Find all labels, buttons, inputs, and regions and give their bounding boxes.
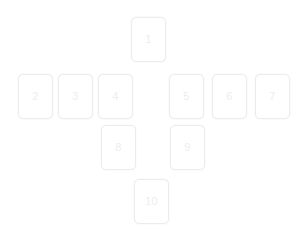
card-8-label: 8: [115, 142, 121, 153]
card-10-label: 10: [145, 196, 158, 207]
card-3-label: 3: [72, 91, 78, 102]
card-2[interactable]: 2: [18, 74, 53, 119]
card-5-label: 5: [183, 91, 189, 102]
card-4[interactable]: 4: [98, 74, 133, 119]
card-8[interactable]: 8: [101, 125, 136, 170]
card-7-label: 7: [269, 91, 275, 102]
card-9[interactable]: 9: [170, 125, 205, 170]
card-6[interactable]: 6: [212, 74, 247, 119]
card-1-label: 1: [145, 34, 151, 45]
card-1[interactable]: 1: [131, 17, 166, 62]
card-6-label: 6: [226, 91, 232, 102]
card-9-label: 9: [184, 142, 190, 153]
card-10[interactable]: 10: [134, 179, 169, 224]
card-2-label: 2: [32, 91, 38, 102]
card-3[interactable]: 3: [58, 74, 93, 119]
card-5[interactable]: 5: [169, 74, 204, 119]
card-4-label: 4: [112, 91, 118, 102]
card-grid-canvas: 12345678910: [0, 0, 301, 239]
card-7[interactable]: 7: [255, 74, 290, 119]
